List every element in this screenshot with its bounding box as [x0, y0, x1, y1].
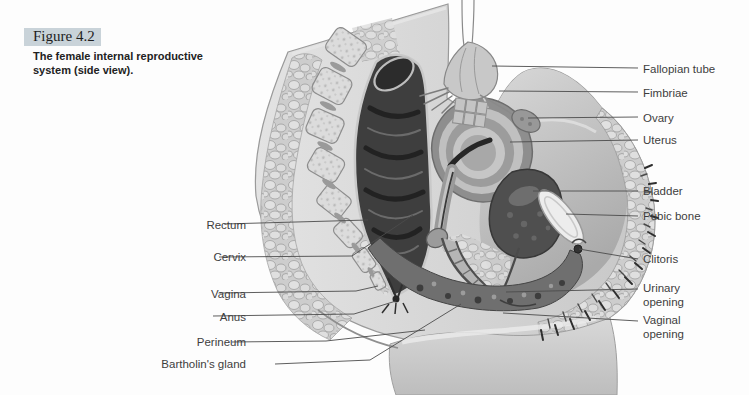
leader-line-fallopian-tube	[492, 66, 638, 68]
label-pubic-bone: Pubic bone	[643, 209, 701, 223]
figure-description: The female internal reproductive system …	[33, 49, 211, 77]
label-urinary-opening: Urinary opening	[643, 281, 701, 309]
figure-number: Figure 4.2	[24, 28, 101, 46]
figure-page: Figure 4.2 The female internal reproduct…	[0, 0, 749, 395]
label-ovary: Ovary	[643, 111, 674, 125]
label-vagina: Vagina	[211, 287, 246, 301]
label-vaginal-opening: Vaginal opening	[643, 313, 701, 341]
label-rectum: Rectum	[206, 218, 246, 232]
label-bartholins-gland: Bartholin's gland	[161, 357, 246, 371]
figure-caption: Figure 4.2 The female internal reproduct…	[33, 27, 223, 77]
label-fimbriae: Fimbriae	[643, 86, 688, 100]
label-perineum: Perineum	[197, 335, 246, 349]
label-clitoris: Clitoris	[643, 252, 678, 266]
label-fallopian-tube: Fallopian tube	[643, 62, 715, 76]
label-cervix: Cervix	[213, 250, 246, 264]
label-anus: Anus	[220, 310, 246, 324]
label-uterus: Uterus	[643, 133, 677, 147]
label-bladder: Bladder	[643, 184, 683, 198]
